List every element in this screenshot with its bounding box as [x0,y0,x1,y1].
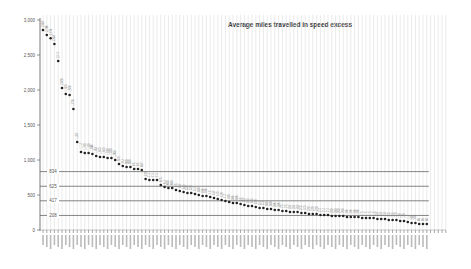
data-value-label: 186 [356,209,360,214]
x-category-label [206,235,208,247]
x-category-label [240,235,242,247]
reference-line-label: 208 [49,213,57,218]
data-value-label: 343 [246,198,250,203]
data-point [426,223,429,226]
x-category-label [183,235,185,247]
x-category-label [407,235,409,245]
data-point [399,220,402,223]
x-category-label [156,235,158,245]
x-category-label [202,235,204,245]
chart: Average miles travelled in speed excess … [0,0,471,269]
data-value-label: 1,728 [71,99,75,106]
x-category-label [365,235,367,247]
data-point [331,215,334,218]
data-value-label: 1,086 [90,144,94,151]
data-value-label: 300 [265,201,269,206]
data-point [129,166,132,169]
data-point [61,87,64,90]
data-point [312,213,315,216]
data-value-label: 729 [144,171,148,176]
y-tick-label: 2,500 [24,53,36,58]
x-category-label [175,235,177,249]
x-category-label [297,235,299,247]
data-point [122,165,125,168]
data-point [274,209,277,212]
x-category-label [69,235,71,247]
x-category-label [289,235,291,249]
data-point [308,213,311,216]
reference-lines: 834625417208 [40,169,429,218]
data-value-label: 243 [303,205,307,210]
data-point [224,200,227,203]
data-point [57,60,60,63]
data-point [384,218,387,221]
data-value-label: 529 [189,185,193,190]
x-category-label [308,235,310,247]
data-value-label: 914 [121,158,125,163]
data-point [285,210,288,213]
data-point [114,159,117,162]
x-category-label [392,235,394,249]
data-value-label: 329 [254,199,258,204]
x-category-label [396,235,398,245]
x-category-label [293,235,295,245]
x-category-label [73,235,75,249]
data-point [315,213,318,216]
x-category-label [373,235,375,245]
data-value-label: 257 [296,204,300,209]
data-value-label: 171 [360,210,364,215]
x-category-label [282,235,284,245]
data-value-label: 229 [311,206,315,211]
data-value-label: 1,000 [113,150,117,157]
data-point [414,222,417,225]
data-point [270,208,273,211]
data-value-label: 143 [394,212,398,217]
data-point [407,221,410,224]
data-point [171,187,174,190]
data-value-label: 200 [330,208,334,213]
x-category-label [259,235,261,245]
data-point [87,152,90,155]
data-point [410,222,413,225]
data-value-label: 371 [239,196,243,201]
x-category-label [209,235,211,249]
y-tick-label: 3,000 [24,18,36,23]
x-category-label [126,235,128,247]
x-category-label [228,235,230,247]
data-point [334,215,337,218]
data-value-label: 214 [322,207,326,212]
x-category-label [54,235,56,245]
x-category-label [145,235,147,245]
data-value-label: 529 [185,185,189,190]
data-point [68,94,71,97]
data-value-label: 314 [258,200,262,205]
x-category-label [190,235,192,245]
data-value-label: 229 [307,206,311,211]
data-value-label: 200 [334,208,338,213]
data-value-label: 543 [182,184,186,189]
data-value-label: 2,028 [60,78,64,85]
x-category-label [179,235,181,245]
x-category-label [350,235,352,245]
x-category-label [171,235,173,247]
data-point [148,179,151,182]
data-value-label: 171 [364,210,368,215]
reference-line-label: 834 [49,169,57,174]
x-category-label [84,235,86,249]
x-category-label [312,235,314,249]
data-point [247,205,250,208]
x-category-label [111,235,113,245]
data-point [293,211,296,214]
data-value-label: 386 [231,195,235,200]
reference-line-label: 625 [49,184,57,189]
data-point [156,179,159,182]
data-value-label: 200 [341,208,345,213]
data-value-label: 257 [292,204,296,209]
data-value-label: 143 [387,212,391,217]
data-point [42,29,45,32]
x-category-label [403,235,405,249]
data-point [217,198,220,201]
data-point [255,206,258,209]
x-category-label [160,235,162,247]
data-point [167,187,170,190]
